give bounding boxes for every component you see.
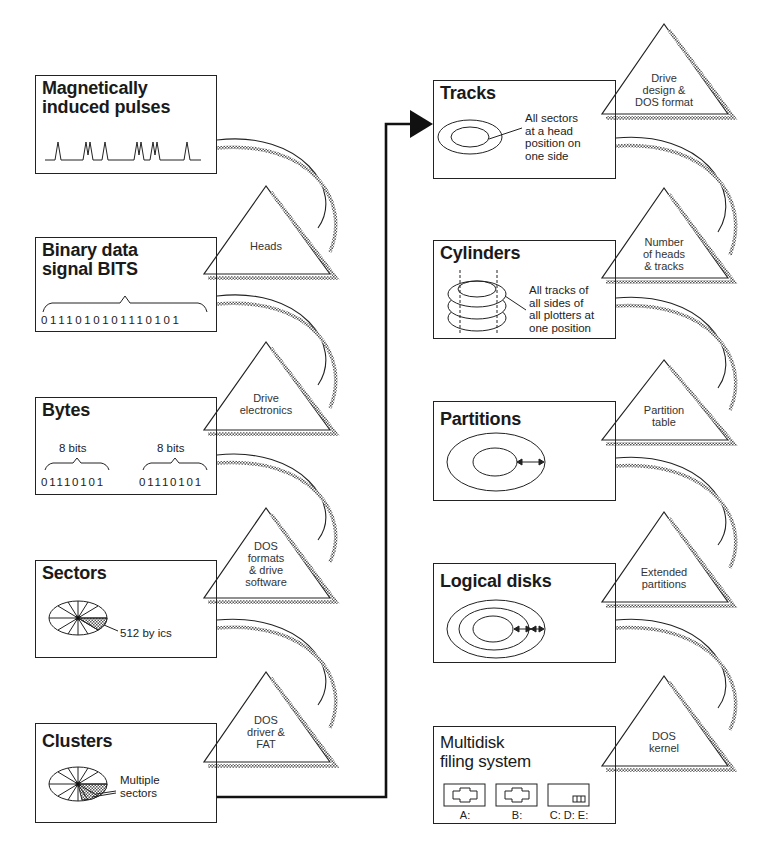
tracks-description: All sectors at a head position on one si… [525, 112, 581, 162]
triangle-label-drive-design: Drive design & DOS format [619, 72, 709, 108]
triangle-heads [204, 186, 330, 274]
box-title-line: Binary data [42, 241, 138, 260]
box-title-line: filing system [440, 752, 531, 771]
box-title: Partitions [440, 410, 521, 429]
box-multidisk: Multidisk filing system A: B: C: D: E: [433, 726, 616, 824]
box-title: Sectors [42, 564, 107, 583]
box-title: Logical disks [440, 572, 551, 591]
triangle-partition-table [602, 360, 728, 440]
disk-hierarchy-diagram: Magnetically induced pulses Binary data … [0, 0, 769, 858]
triangle-label-heads: Heads [221, 240, 311, 252]
box-tracks: Tracks All sectors at a head position on… [433, 80, 616, 179]
box-title-line: induced pulses [42, 98, 170, 117]
triangle-label-dos-kernel: DOS kernel [619, 730, 709, 754]
drive-label-a: A: [442, 809, 488, 821]
sector-callout: 512 by ics [120, 627, 172, 640]
byte-value: 01110101 [139, 476, 203, 488]
triangle-label-dos-driver-fat: DOS driver & FAT [221, 714, 311, 750]
triangle-label-extended-partitions: Extended partitions [619, 566, 709, 590]
bit-string: 0111010101110101 [41, 314, 182, 326]
byte-value: 01110101 [41, 476, 105, 488]
box-title: Cylinders [440, 244, 520, 263]
left-triangles [204, 186, 336, 766]
box-title-line: signal BITS [42, 260, 138, 279]
drive-label-b: B: [494, 809, 540, 821]
cylinders-description: All tracks of all sides of all plotters … [529, 284, 594, 334]
box-clusters: Clusters Multiple sectors [35, 723, 217, 823]
box-title-line: Multidisk [440, 733, 531, 752]
box-cylinders: Cylinders All tracks of all sides of all… [433, 240, 616, 339]
drive-label-cde: C: D: E: [544, 809, 594, 821]
box-magnetic-pulses: Magnetically induced pulses [35, 75, 217, 174]
triangle-label-partition-table: Partition table [619, 404, 709, 428]
triangle-drive-electronics [204, 342, 330, 430]
box-logical-disks: Logical disks [433, 563, 616, 663]
box-sectors: Sectors 512 by ics [35, 560, 217, 658]
triangle-label-heads-tracks: Number of heads & tracks [619, 236, 709, 272]
triangle-label-dos-formats: DOS formats & drive software [221, 540, 311, 588]
box-bytes: Bytes 8 bits 8 bits 01110101 01110101 [35, 397, 217, 495]
box-title: Clusters [42, 732, 112, 751]
box-title: Tracks [440, 84, 496, 103]
byte-group-label: 8 bits [59, 442, 87, 455]
triangle-label-drive-electronics: Drive electronics [221, 392, 311, 416]
box-title-line: Magnetically [42, 79, 170, 98]
box-title: Bytes [42, 401, 90, 420]
box-partitions: Partitions [433, 401, 616, 501]
byte-group-label: 8 bits [157, 442, 185, 455]
cluster-callout: Multiple sectors [120, 774, 160, 799]
box-binary-bits: Binary data signal BITS 0111010101110101 [35, 237, 217, 332]
